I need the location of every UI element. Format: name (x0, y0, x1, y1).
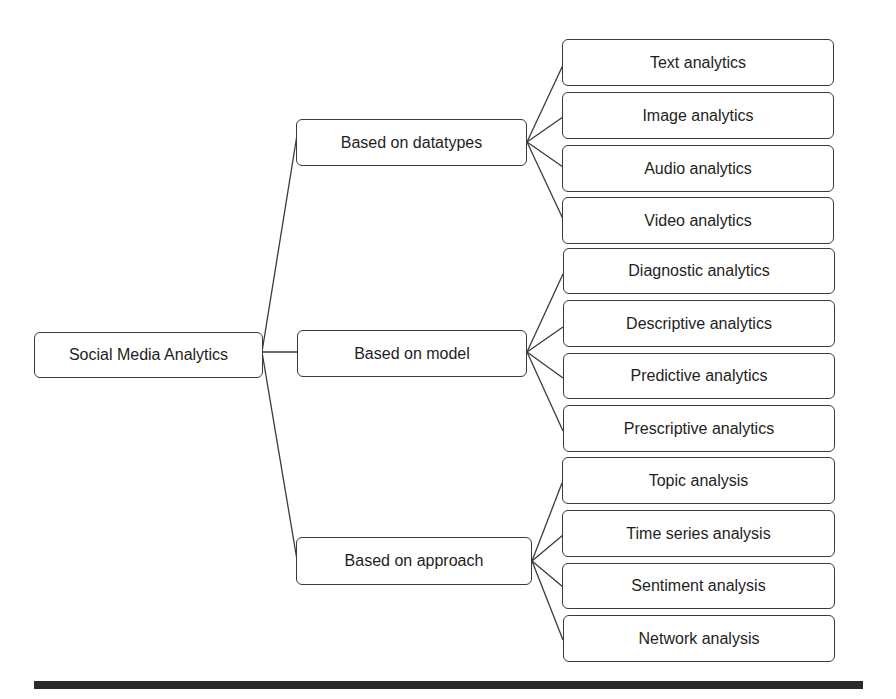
link-model-prescriptive (527, 352, 563, 431)
leaf-node-diagnostic-analytics: Diagnostic analytics (563, 248, 835, 294)
link-datatypes-video (527, 142, 563, 219)
leaf-node-network-analysis: Network analysis (563, 615, 835, 662)
leaf-node-prescriptive-analytics: Prescriptive analytics (563, 405, 835, 452)
link-model-diagnostic (527, 274, 563, 352)
leaf-node-text-analytics: Text analytics (562, 39, 834, 86)
leaf-node-topic-analysis: Topic analysis (562, 457, 835, 504)
leaf-node-image-analytics: Image analytics (562, 92, 834, 139)
link-approach-topic (532, 483, 562, 561)
branch-node-datatypes: Based on datatypes (296, 119, 527, 166)
bottom-divider (34, 681, 863, 689)
leaf-node-predictive-analytics: Predictive analytics (563, 353, 835, 399)
link-datatypes-text (527, 65, 563, 142)
leaf-node-video-analytics: Video analytics (562, 197, 834, 244)
leaf-node-descriptive-analytics: Descriptive analytics (563, 300, 835, 347)
link-root-approach (262, 352, 297, 560)
branch-node-approach: Based on approach (296, 537, 532, 585)
root-node: Social Media Analytics (34, 332, 263, 378)
leaf-node-audio-analytics: Audio analytics (562, 145, 834, 192)
leaf-node-time-series-analysis: Time series analysis (562, 510, 835, 557)
link-approach-network (532, 561, 563, 640)
leaf-node-sentiment-analysis: Sentiment analysis (562, 563, 835, 609)
link-root-datatypes (262, 135, 297, 352)
branch-node-model: Based on model (297, 330, 527, 377)
